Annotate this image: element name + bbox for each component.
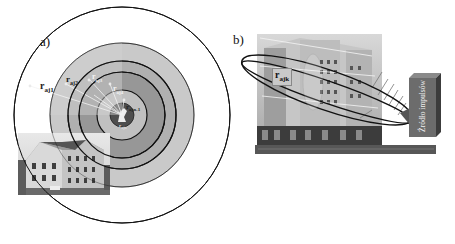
radius-label-aj3: raj3	[92, 72, 102, 83]
radius-label-aj1: raj1	[40, 80, 54, 94]
ground-strip	[255, 145, 436, 154]
cross-section-oval	[303, 54, 323, 110]
panel-a-label: a)	[40, 34, 50, 50]
radius-label-aj4-sub: aj4	[117, 90, 124, 95]
radius-label-aj2-sub: aj2	[70, 80, 78, 86]
figure-canvas	[0, 0, 455, 244]
radius-label-aj3-sub: aj3	[96, 78, 103, 83]
building-photo-a	[18, 133, 110, 195]
panel-b-label: b)	[233, 32, 244, 48]
radius-label-ajn-1-sub: ajn-1	[129, 107, 140, 112]
radius-label-aj1-sub: aj1	[44, 86, 53, 94]
panel-b-directional	[235, 34, 441, 154]
radius-label-ajn-sub: ajn	[121, 125, 127, 130]
radius-label-aj4: raj4	[113, 84, 123, 95]
highlight-wedge	[50, 43, 122, 115]
radius-label-aj2: raj2	[66, 74, 78, 86]
radius-label-ajk: rajk	[272, 68, 292, 86]
radius-label-ajn: rajn	[119, 123, 127, 130]
radius-label-ajn-1: rajn-1	[126, 103, 140, 112]
pulse-source-label: Źródło impulsów	[418, 79, 428, 134]
radius-label-ajk-sub: ajk	[279, 75, 289, 83]
